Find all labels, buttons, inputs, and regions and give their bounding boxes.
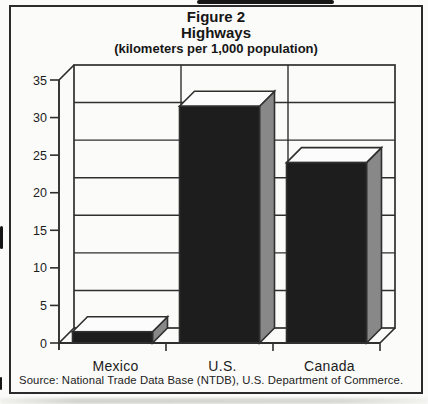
bar-top-face <box>73 317 168 332</box>
y-tick-label: 5 <box>40 299 47 313</box>
source-note: Source: National Trade Data Base (NTDB),… <box>19 374 403 386</box>
y-tick-label: 20 <box>33 186 47 200</box>
category-label: Canada <box>304 358 355 374</box>
page-edge-shadow <box>0 398 428 404</box>
bar-chart-3d: 05101520253035MexicoU.S.Canada <box>0 0 428 404</box>
category-label: U.S. <box>208 358 236 374</box>
category-label: Mexico <box>92 358 138 374</box>
bar-side-face <box>367 148 382 343</box>
bar-canada <box>287 148 382 343</box>
bar-front-face <box>73 332 153 343</box>
depth-edge <box>59 65 74 80</box>
bar-us <box>180 91 275 343</box>
bar-top-face <box>287 148 382 163</box>
bar-top-face <box>180 91 275 106</box>
y-axis-ticks: 05101520253035 <box>33 74 59 351</box>
y-tick-label: 30 <box>33 111 47 125</box>
bar-side-face <box>260 91 275 343</box>
x-axis-categories: MexicoU.S.Canada <box>92 343 380 374</box>
scanned-page: Figure 2 Highways (kilometers per 1,000 … <box>0 0 428 404</box>
bar-front-face <box>287 163 367 343</box>
y-tick-label: 0 <box>40 337 47 351</box>
bar-mexico <box>73 317 168 343</box>
y-tick-label: 25 <box>33 149 47 163</box>
y-tick-label: 10 <box>33 261 47 275</box>
depth-edge <box>380 328 395 343</box>
bar-front-face <box>180 106 260 343</box>
y-tick-label: 15 <box>33 224 47 238</box>
y-tick-label: 35 <box>33 74 47 88</box>
